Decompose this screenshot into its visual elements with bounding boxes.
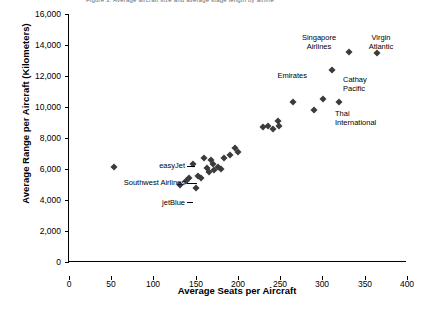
x-tickmark	[407, 276, 408, 280]
y-tickmark	[65, 107, 69, 108]
data-point	[218, 165, 225, 172]
annotation-virgin-atlantic: Virgin Atlantic	[355, 34, 407, 51]
y-tick-0: 0	[5, 257, 61, 267]
x-tickmark	[322, 276, 323, 280]
y-tick-16000: 16,000	[5, 9, 61, 19]
y-tickmark	[65, 14, 69, 15]
x-tickmark	[238, 276, 239, 280]
data-point	[201, 155, 208, 162]
data-point	[336, 99, 343, 106]
y-tick-4000: 4,000	[5, 195, 61, 205]
y-tick-2000: 2,000	[5, 226, 61, 236]
y-tickmark	[65, 200, 69, 201]
y-tickmark	[65, 138, 69, 139]
data-point	[192, 185, 199, 192]
y-tick-14000: 14,000	[5, 40, 61, 50]
x-tickmark	[365, 276, 366, 280]
y-tickmark	[65, 76, 69, 77]
data-point	[289, 98, 296, 105]
annotation-cathay-pacific: Cathay Pacific	[343, 76, 403, 93]
x-tickmark	[196, 276, 197, 280]
leader-line-easyjet	[187, 166, 195, 167]
y-axis-title: Average Range per Aircraft (Kilometers)	[20, 0, 31, 229]
y-tickmark	[65, 169, 69, 170]
x-tickmark	[111, 276, 112, 280]
annotation-emirates: Emirates	[227, 72, 307, 81]
data-point	[197, 175, 204, 182]
chart-container: Figure 3. Average aircraft size and aver…	[0, 0, 432, 311]
data-point	[328, 66, 335, 73]
data-point	[234, 148, 241, 155]
data-point	[220, 155, 227, 162]
x-axis-title: Average Seats per Aircraft	[68, 285, 406, 296]
x-tickmark	[280, 276, 281, 280]
data-point	[276, 122, 283, 129]
annotation-jetblue: jetBlue	[109, 199, 185, 208]
annotation-singapore-airlines: Singapore Airlines	[288, 34, 350, 51]
y-tick-12000: 12,000	[5, 71, 61, 81]
y-tick-10000: 10,000	[5, 102, 61, 112]
data-point	[320, 96, 327, 103]
annotation-thai-international: Thai International	[335, 110, 405, 127]
x-tickmark	[153, 276, 154, 280]
y-tickmark	[65, 45, 69, 46]
leader-line-southwest	[187, 183, 197, 184]
leader-line-jetblue	[187, 202, 193, 203]
x-tickmark	[69, 276, 70, 280]
plot-area: 0 2,000 4,000 6,000 8,000 10,000 12,000 …	[68, 14, 406, 262]
annotation-southwest-airlines: Southwest Airlines	[57, 179, 185, 188]
y-tick-8000: 8,000	[5, 133, 61, 143]
annotation-easyjet: easyJet	[109, 162, 185, 171]
data-point	[311, 107, 318, 114]
y-tick-6000: 6,000	[5, 164, 61, 174]
figure-caption: Figure 3. Average aircraft size and aver…	[86, 0, 274, 3]
y-tickmark	[65, 231, 69, 232]
y-tickmark	[65, 262, 69, 263]
